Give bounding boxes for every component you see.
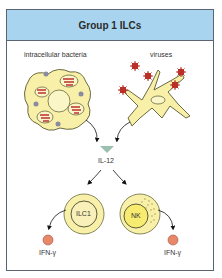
label-nk: NK bbox=[131, 212, 141, 219]
label-il12: IL-12 bbox=[98, 157, 114, 164]
infected-macrophage-icon bbox=[24, 69, 90, 130]
label-intracellular-bacteria: intracellular bacteria bbox=[24, 51, 87, 58]
arrow-il12-to-nk bbox=[113, 170, 125, 183]
label-viruses: viruses bbox=[150, 51, 172, 58]
arrow-ilc1-to-ifn bbox=[49, 210, 66, 228]
dendritic-cell-icon bbox=[124, 70, 190, 126]
arrow-il12-to-ilc1 bbox=[89, 170, 101, 183]
label-ifn-gamma-left: IFN-γ bbox=[39, 249, 56, 256]
arrow-virus-to-il12 bbox=[117, 122, 130, 140]
arrow-bacteria-to-il12 bbox=[86, 120, 97, 140]
il12-triangle-icon bbox=[100, 146, 114, 153]
ifn-gamma-right-icon bbox=[168, 235, 178, 245]
label-ifn-gamma-right: IFN-γ bbox=[164, 249, 181, 256]
ifn-gamma-left-icon bbox=[43, 235, 53, 245]
diagram-graphics bbox=[0, 0, 222, 278]
label-ilc1: ILC1 bbox=[76, 210, 91, 217]
